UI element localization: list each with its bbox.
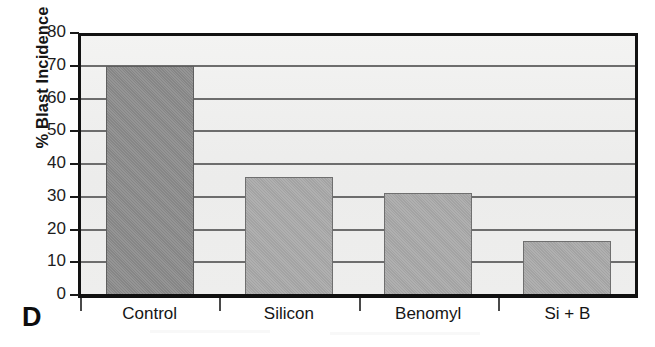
- bar-control: [106, 66, 194, 295]
- panel-letter: D: [22, 302, 42, 333]
- bar-si-b: [523, 241, 611, 295]
- scan-artifact: [330, 332, 480, 335]
- y-tick-mark: [70, 196, 79, 198]
- axis-top-line: [80, 33, 638, 36]
- bar-texture: [524, 242, 610, 294]
- y-tick-mark: [70, 32, 79, 34]
- x-tick-label: Silicon: [219, 304, 359, 324]
- x-tick-label: Control: [80, 304, 220, 324]
- scan-artifact: [150, 330, 270, 333]
- x-tick-mark: [80, 298, 82, 311]
- y-tick-label: 50: [26, 120, 66, 140]
- bar-silicon: [245, 177, 333, 295]
- y-tick-label: 30: [26, 186, 66, 206]
- y-tick-mark: [70, 229, 79, 231]
- y-tick-label: 70: [26, 55, 66, 75]
- x-tick-label: Benomyl: [358, 304, 498, 324]
- y-tick-label: 80: [26, 22, 66, 42]
- y-tick-label: 60: [26, 88, 66, 108]
- bar-benomyl: [384, 193, 472, 295]
- bar-texture: [385, 194, 471, 294]
- axis-right-line: [635, 33, 638, 296]
- y-tick-label: 10: [26, 251, 66, 271]
- x-tick-label: Si + B: [497, 304, 637, 324]
- y-tick-label: 20: [26, 219, 66, 239]
- bar-texture: [107, 67, 193, 294]
- plot-area: [80, 33, 637, 295]
- y-axis-line: [78, 33, 81, 298]
- y-tick-mark: [70, 294, 79, 296]
- y-tick-mark: [70, 130, 79, 132]
- y-tick-mark: [70, 261, 79, 263]
- y-tick-mark: [70, 98, 79, 100]
- y-tick-mark: [70, 65, 79, 67]
- y-tick-label: 40: [26, 153, 66, 173]
- bar-texture: [246, 178, 332, 294]
- y-tick-label: 0: [26, 284, 66, 304]
- figure-panel-d: % Blast Incidence 01020304050607080 Cont…: [0, 0, 655, 347]
- y-tick-mark: [70, 163, 79, 165]
